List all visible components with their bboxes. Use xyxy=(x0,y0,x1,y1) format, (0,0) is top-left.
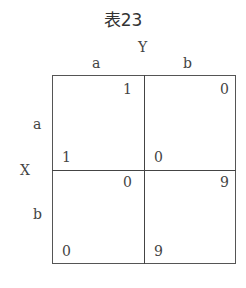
cell-bb-x-payoff: 9 xyxy=(154,244,163,258)
column-strategy-b: b xyxy=(183,56,192,70)
cell-bb-y-payoff: 9 xyxy=(220,175,229,189)
cell-ba-y-payoff: 0 xyxy=(123,175,132,189)
cell-ba-x-payoff: 0 xyxy=(62,244,71,258)
row-strategy-a: a xyxy=(33,117,41,131)
cell-ab-x-payoff: 0 xyxy=(154,150,163,164)
cell-aa-x-payoff: 1 xyxy=(62,150,71,164)
matrix-horizontal-divider xyxy=(52,170,236,171)
column-strategy-a: a xyxy=(92,56,100,70)
column-player-label: Y xyxy=(138,40,147,54)
row-player-label: X xyxy=(20,163,30,177)
cell-aa-y-payoff: 1 xyxy=(123,82,132,96)
cell-ab-y-payoff: 0 xyxy=(220,82,229,96)
row-strategy-b: b xyxy=(33,207,42,221)
table-title: 表23 xyxy=(0,6,246,31)
